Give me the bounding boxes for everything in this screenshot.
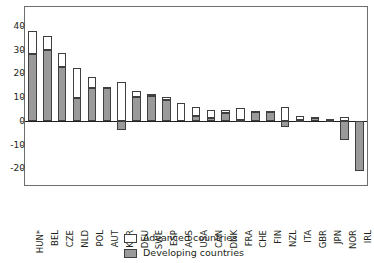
- bar-segment-developing[interactable]: [236, 120, 245, 122]
- bar-segment-advanced[interactable]: [236, 108, 245, 120]
- x-axis-tick-label: NOR: [349, 230, 358, 249]
- bar-segment-developing[interactable]: [340, 121, 349, 140]
- bar-segment-developing[interactable]: [296, 120, 305, 122]
- bar-segment-advanced[interactable]: [281, 107, 290, 121]
- legend-label: Developing countries: [143, 248, 244, 258]
- bar-segment-developing[interactable]: [355, 121, 364, 172]
- bar-segment-developing[interactable]: [207, 118, 216, 121]
- y-tick-label: -20: [10, 164, 25, 173]
- bar-group[interactable]: [162, 7, 171, 185]
- bar-group[interactable]: [340, 7, 349, 185]
- bar-segment-advanced[interactable]: [147, 94, 156, 96]
- legend-item: Developing countries: [124, 246, 344, 260]
- bar-segment-developing[interactable]: [132, 97, 141, 121]
- bar-segment-advanced[interactable]: [117, 82, 126, 121]
- bar-segment-advanced[interactable]: [73, 68, 82, 98]
- bar-segment-developing[interactable]: [103, 88, 112, 121]
- bar-segment-developing[interactable]: [147, 96, 156, 121]
- bar-group[interactable]: [177, 7, 186, 185]
- bar-segment-developing[interactable]: [88, 88, 97, 121]
- bar-segment-advanced[interactable]: [311, 117, 320, 119]
- x-axis-tick-label: IRL: [364, 230, 373, 243]
- x-axis-tick-label: CZE: [66, 230, 75, 247]
- bar-segment-advanced[interactable]: [221, 110, 230, 113]
- bar-group[interactable]: [147, 7, 156, 185]
- bar-segment-developing[interactable]: [117, 121, 126, 130]
- bar-segment-advanced[interactable]: [192, 107, 201, 116]
- bar-group[interactable]: [311, 7, 320, 185]
- white-square-swatch: [124, 234, 137, 243]
- bar-group[interactable]: [251, 7, 260, 185]
- bar-segment-advanced[interactable]: [266, 111, 275, 113]
- bar-group[interactable]: [192, 7, 201, 185]
- bar-group[interactable]: [73, 7, 82, 185]
- x-axis-tick-label: POL: [96, 230, 105, 247]
- legend-item: Advanced countries: [124, 231, 344, 245]
- plot-area: [25, 7, 367, 185]
- x-axis-tick-label: NLD: [81, 230, 90, 248]
- y-tick-label: -10: [10, 140, 25, 149]
- bar-segment-advanced[interactable]: [88, 77, 97, 87]
- bar-group[interactable]: [281, 7, 290, 185]
- legend-label: Advanced countries: [143, 233, 237, 243]
- bar-segment-developing[interactable]: [281, 121, 290, 127]
- bar-segment-developing[interactable]: [221, 113, 230, 121]
- grey-square-swatch: [124, 249, 137, 258]
- bar-segment-developing[interactable]: [192, 116, 201, 121]
- bar-segment-advanced[interactable]: [296, 116, 305, 120]
- bar-group[interactable]: [326, 7, 335, 185]
- bar-segment-advanced[interactable]: [207, 110, 216, 118]
- bar-segment-developing[interactable]: [43, 50, 52, 121]
- bar-segment-advanced[interactable]: [326, 119, 335, 121]
- bar-group[interactable]: [236, 7, 245, 185]
- bar-group[interactable]: [58, 7, 67, 185]
- bar-group[interactable]: [88, 7, 97, 185]
- bar-group[interactable]: [296, 7, 305, 185]
- x-axis-labels: HUN*BELCZENLDPOLAUTKORDEUSWEESPAUSUSACAN…: [25, 188, 367, 232]
- bar-segment-advanced[interactable]: [162, 97, 171, 100]
- bar-segment-developing[interactable]: [73, 98, 82, 121]
- bar-segment-advanced[interactable]: [132, 91, 141, 97]
- bar-segment-advanced[interactable]: [251, 111, 260, 113]
- x-axis-tick-label: BEL: [51, 230, 60, 246]
- x-axis-tick-label: AUT: [111, 230, 120, 247]
- bar-segment-advanced[interactable]: [340, 117, 349, 121]
- bar-segment-developing[interactable]: [28, 54, 37, 120]
- bar-segment-advanced[interactable]: [177, 103, 186, 121]
- bar-group[interactable]: [43, 7, 52, 185]
- bar-segment-advanced[interactable]: [43, 36, 52, 50]
- bar-group[interactable]: [221, 7, 230, 185]
- chart-legend: Advanced countriesDeveloping countries: [124, 231, 344, 261]
- bar-segment-advanced[interactable]: [28, 31, 37, 55]
- bar-segment-developing[interactable]: [162, 100, 171, 121]
- bar-group[interactable]: [207, 7, 216, 185]
- bar-segment-advanced[interactable]: [103, 87, 112, 89]
- bar-group[interactable]: [28, 7, 37, 185]
- x-axis-tick-label: HUN*: [36, 230, 45, 253]
- bars-layer: [25, 7, 367, 185]
- bar-group[interactable]: [117, 7, 126, 185]
- bar-group[interactable]: [266, 7, 275, 185]
- bar-segment-developing[interactable]: [266, 112, 275, 121]
- bar-segment-advanced[interactable]: [58, 53, 67, 67]
- bar-chart: 403020100-10-20 HUN*BELCZENLDPOLAUTKORDE…: [0, 0, 374, 263]
- bar-group[interactable]: [355, 7, 364, 185]
- bar-group[interactable]: [132, 7, 141, 185]
- bar-group[interactable]: [103, 7, 112, 185]
- bar-segment-developing[interactable]: [58, 67, 67, 121]
